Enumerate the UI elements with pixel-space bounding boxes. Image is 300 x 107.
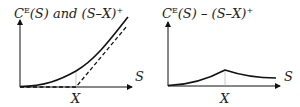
- right-difference-curve: [168, 70, 276, 86]
- right-x-tick-label: X: [219, 91, 230, 106]
- left-call-curve: [20, 17, 128, 87]
- left-chart: CE(S) and (S–X)+ S X: [14, 6, 144, 106]
- figure: CE(S) and (S–X)+ S X CE(S) – (S–X)+ S X: [0, 0, 300, 107]
- right-chart: CE(S) – (S–X)+ S X: [162, 6, 293, 106]
- left-x-label: S: [135, 69, 144, 84]
- left-payoff-dashed: [20, 26, 127, 87]
- right-title: CE(S) – (S–X)+: [162, 6, 253, 21]
- left-title: CE(S) and (S–X)+: [14, 6, 123, 21]
- right-x-label: S: [284, 69, 293, 84]
- left-x-tick-label: X: [70, 91, 81, 106]
